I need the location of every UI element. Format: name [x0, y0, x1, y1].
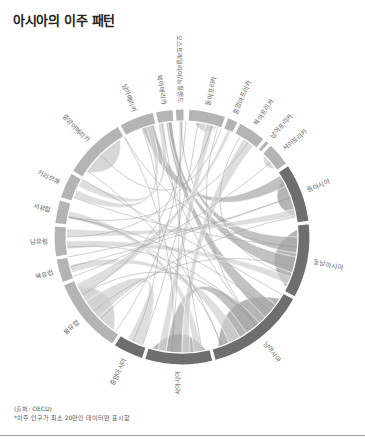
segment-label: 남아메리카 [120, 82, 139, 113]
segment-label: 서아시아 [173, 371, 183, 395]
segment-label: 동아시아 [306, 177, 332, 194]
segment-label: 서아프리카 [281, 127, 310, 153]
chords-layer [66, 121, 298, 353]
segment-label: 남유럽 [30, 236, 48, 246]
footer: (출처: OECD) *이주 인구가 최소 20만인 데이터만 표시함 [14, 404, 130, 422]
segment-label: 오스트레일리아/뉴질랜드 [175, 35, 185, 103]
segment-label: 중앙아시아 [108, 356, 129, 387]
chord-diagram: 오스트레일리아/뉴질랜드동아프리카중앙아프리카북아프리카남아프리카서아프리카동아… [0, 0, 365, 444]
divider [0, 435, 365, 436]
segment-label: 카리브해 [36, 168, 62, 186]
ring-segment[interactable] [54, 226, 67, 257]
segment-label: 동아프리카 [204, 75, 219, 106]
segment-label: 중앙아메리카 [60, 112, 92, 144]
segment-label: 남아프리카 [268, 112, 295, 140]
segment-label: 남아시아 [262, 339, 284, 363]
segment-label: 동남아시아 [313, 257, 344, 272]
source-note: (출처: OECD) [14, 404, 130, 413]
ring-segment[interactable] [155, 109, 174, 123]
segment-label: 중앙아프리카 [231, 79, 254, 116]
segment-label: 서유럽 [32, 202, 51, 214]
segment-label: 북아프리카 [252, 97, 276, 127]
segment-label: 동유럽 [61, 318, 81, 336]
segment-label: 북아메리카 [155, 74, 168, 105]
data-note: *이주 인구가 최소 20만인 데이터만 표시함 [14, 413, 130, 422]
segment-label: 북유럽 [34, 268, 54, 281]
ring-segment[interactable] [175, 109, 184, 121]
